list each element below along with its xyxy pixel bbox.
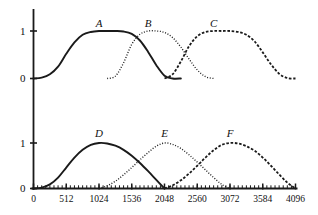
x-tick-label-4096: 4096 — [276, 195, 316, 205]
y-tick-label-bottom-0: 0 — [12, 183, 26, 194]
curve-label-f: F — [218, 128, 242, 139]
curve-label-c: C — [202, 18, 226, 29]
y-tick-label-bottom-1: 1 — [12, 138, 26, 149]
curve-e — [99, 143, 230, 189]
curve-label-a: A — [87, 18, 111, 29]
y-tick-label-top-1: 1 — [12, 26, 26, 37]
y-tick-label-top-0: 0 — [12, 73, 26, 84]
curve-label-d: D — [87, 128, 111, 139]
curve-d — [34, 143, 165, 189]
curve-c — [165, 31, 296, 79]
curve-a — [34, 31, 181, 79]
plot-canvas — [0, 0, 318, 215]
curve-label-b: B — [136, 18, 160, 29]
curve-f — [165, 143, 296, 189]
curves-group — [34, 31, 296, 189]
chart-figure: ABC10DEF10051210241536204825603072358440… — [0, 0, 318, 215]
curve-label-e: E — [153, 128, 177, 139]
